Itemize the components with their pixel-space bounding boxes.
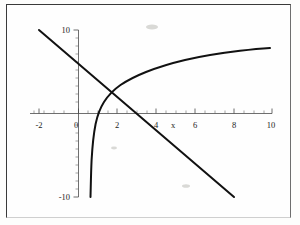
x-tick-label-6: 6: [193, 120, 197, 130]
x-axis-major-ticks: [39, 109, 272, 114]
plot-canvas: -2 0 2 4 6 8 10 x 10 -10: [0, 0, 300, 225]
scan-speck: [111, 147, 117, 150]
x-axis-minor-ticks: [34, 111, 264, 114]
y-tick-label-10: 10: [62, 25, 71, 35]
x-tick-label-0: 0: [74, 120, 78, 130]
scan-speck: [146, 25, 158, 30]
x-tick-label-neg2: -2: [35, 120, 42, 130]
y-tick-label-neg10: -10: [59, 192, 70, 202]
x-tick-label-8: 8: [232, 120, 236, 130]
x-tick-label-10: 10: [267, 120, 276, 130]
x-axis-label: x: [171, 120, 176, 130]
x-tick-label-2: 2: [115, 120, 119, 130]
figure-root: -2 0 2 4 6 8 10 x 10 -10: [0, 0, 300, 225]
scan-speck: [182, 184, 190, 188]
